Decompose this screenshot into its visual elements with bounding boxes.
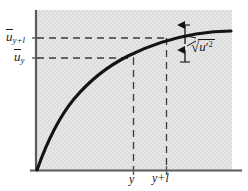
y-axis-label-u-bar-y-plus-l: uy+l bbox=[6, 29, 25, 45]
x-axis-tick-label-y-plus-l: y+l bbox=[152, 172, 169, 184]
rms-velocity-fluctuation-label: √u′2 bbox=[191, 39, 215, 55]
u-bar-subscript-lower: y bbox=[21, 55, 25, 65]
y-axis-label-u-bar-y: uy bbox=[14, 49, 24, 65]
x-axis-tick-label-y: y bbox=[129, 173, 134, 185]
u-bar-subscript-upper: y+l bbox=[13, 35, 25, 45]
figure-canvas bbox=[0, 0, 248, 191]
radicand-group: u′2 bbox=[198, 39, 215, 54]
mixing-length-figure: uy+l uy y y+l √u′2 bbox=[0, 0, 248, 191]
exponent-two: 2 bbox=[209, 39, 213, 49]
